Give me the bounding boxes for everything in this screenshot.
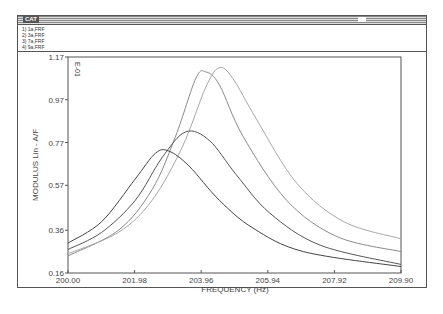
y-tick-label: 0.57 [48,181,64,190]
x-tick-label: 203.96 [189,276,214,285]
x-tick-label: 209.90 [389,276,414,285]
y-tick-label: 0.36 [48,226,64,235]
y-tick-label: 1.17 [48,53,64,62]
series-lines [68,67,401,266]
series-line [68,67,401,253]
y-axis: 1.170.970.770.570.360.16 [48,53,68,278]
series-line [68,71,401,256]
y-tick-label: 0.77 [48,139,64,148]
y-tick-label: 0.97 [48,96,64,105]
x-tick-label: 207.92 [322,276,347,285]
series-line [68,131,401,264]
y-scale-note: E-01 [74,62,81,77]
x-tick-label: 205.94 [256,276,281,285]
x-tick-label: 201.98 [122,276,147,285]
x-axis-label: FREQUENCY (Hz) [201,285,269,294]
x-axis: 200.00201.98203.96205.94207.92209.90 [56,270,414,285]
plot-frame [68,57,401,273]
frf-chart: 1.170.970.770.570.360.16 200.00201.98203… [0,0,443,314]
x-tick-label: 200.00 [56,276,81,285]
series-line [68,150,401,267]
y-axis-label: MODULUS Lin - A/F [31,129,40,201]
